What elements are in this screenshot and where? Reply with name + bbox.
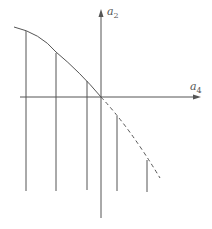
diagram-canvas: a2 a4 bbox=[0, 0, 212, 229]
vertical-axis-label: a2 bbox=[107, 5, 119, 20]
vertical-axis-arrow-icon bbox=[99, 9, 104, 17]
vertical-axis-label-subscript: 2 bbox=[114, 11, 119, 20]
horizontal-axis-label: a4 bbox=[190, 80, 202, 95]
horizontal-axis-label-subscript: 4 bbox=[197, 86, 202, 95]
solid-curve bbox=[14, 27, 101, 97]
dashed-curve bbox=[101, 97, 160, 178]
diagram-svg bbox=[0, 0, 212, 229]
horizontal-axis-arrow-icon bbox=[193, 95, 201, 100]
